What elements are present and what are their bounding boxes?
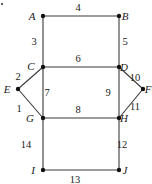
node-e [16, 87, 20, 91]
node-label: B [122, 10, 129, 22]
graph-diagram: 4356279101118141213ABCDEFGHIJ [0, 0, 152, 184]
node-label: A [28, 10, 36, 22]
edge-weight-label: 10 [130, 72, 141, 83]
node-label: G [26, 112, 34, 124]
edge-weight-label: 8 [75, 104, 80, 115]
node-a [41, 14, 45, 18]
edge-weight-label: 1 [16, 103, 21, 114]
edge-weight-label: 11 [130, 101, 140, 112]
node-label: C [27, 60, 35, 72]
edge-weight-label: 3 [31, 36, 36, 47]
edge-weight-label: 13 [70, 174, 81, 184]
node-b [117, 14, 121, 18]
edge-weight-label: 9 [105, 87, 110, 98]
edge-weight-label: 2 [15, 71, 20, 82]
node-label: E [3, 83, 11, 95]
edge-weight-label: 12 [117, 139, 128, 150]
edge-weight-label: 4 [75, 2, 81, 13]
edge-weight-label: 5 [122, 36, 127, 47]
stray-dot [1, 3, 3, 5]
edge-weight-label: 6 [75, 53, 80, 64]
node-label: D [119, 61, 128, 73]
node-label: I [30, 164, 36, 176]
node-label: F [144, 83, 152, 95]
node-j [117, 168, 121, 172]
node-label: J [123, 164, 129, 176]
node-i [41, 168, 45, 172]
edge-weight-label: 7 [44, 87, 49, 98]
node-c [41, 65, 45, 69]
edge-weight-label: 14 [21, 139, 32, 150]
node-label: H [119, 112, 129, 124]
labels-group: 4356279101118141213ABCDEFGHIJ [3, 2, 152, 184]
node-g [41, 116, 45, 120]
